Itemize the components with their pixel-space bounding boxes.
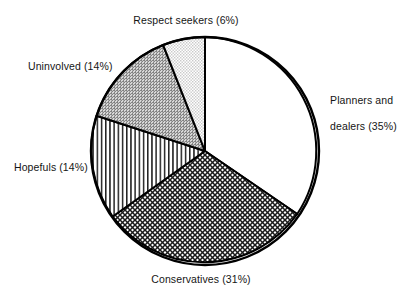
pie-label-planners-and-dealers: Planners and dealers (35%) [318,81,403,146]
pie-label-planners-line-1: Planners and [330,94,393,106]
pie-label-hopefuls: Hopefuls (14%) [14,161,114,174]
pie-label-uninvolved: Uninvolved (14%) [28,60,138,73]
pie-label-conservatives: Conservatives (31%) [128,273,274,286]
pie-label-respect-seekers: Respect seekers (6%) [120,14,252,27]
pie-chart-figure: Respect seekers (6%) Planners and dealer… [0,0,403,304]
pie-chart-svg [0,0,403,304]
pie-label-planners-line-2: dealers (35%) [330,120,397,132]
